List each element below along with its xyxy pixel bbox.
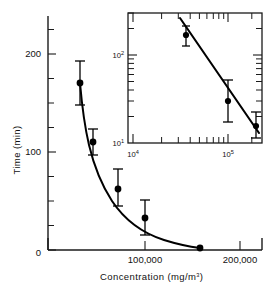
main-x-axis-title-close: ) (200, 271, 204, 282)
main-ytick-label-200: 200 (25, 48, 41, 59)
main-y-axis-title: Time (min) (11, 125, 22, 174)
inset-ytick-10-exponent: 1 (121, 138, 124, 144)
main-xtick-label-100000: 100,000 (128, 254, 162, 265)
main-y-minor-ticks (48, 30, 54, 226)
inset-xtick-1e4-exponent: 4 (136, 149, 139, 155)
inset-xtick-1e4-mantissa: 10 (127, 150, 135, 159)
main-x-axis-title-base: Concentration (mg/m (100, 271, 196, 282)
main-x-major-ticks (145, 241, 240, 250)
inset-xtick-label-1e4: 104 (127, 149, 139, 159)
chart-canvas: 200 100 0 100,000 200,000 Time (min) Con… (0, 0, 274, 291)
inset-ytick-100-exponent: 2 (121, 50, 124, 56)
data-point-5 (197, 245, 204, 252)
figure-container: 200 100 0 100,000 200,000 Time (min) Con… (0, 0, 274, 291)
main-ytick-label-100: 100 (25, 146, 41, 157)
inset-xtick-1e5-exponent: 5 (231, 149, 234, 155)
main-y-major-ticks (48, 54, 56, 250)
data-point-1 (75, 61, 85, 105)
main-x-axis-title: Concentration (mg/m3) (100, 271, 203, 282)
data-point-2 (88, 129, 98, 155)
inset-plot: 102 101 104 105 (112, 13, 262, 159)
inset-xtick-1e5-mantissa: 10 (222, 150, 230, 159)
inset-ytick-10-mantissa: 10 (112, 139, 120, 148)
inset-ytick-label-10: 101 (112, 138, 124, 148)
inset-ytick-100-mantissa: 10 (112, 51, 120, 60)
inset-ytick-label-100: 102 (112, 50, 124, 60)
main-xtick-label-200000: 200,000 (223, 254, 257, 265)
data-point-3 (113, 169, 123, 206)
inset-frame (128, 13, 262, 143)
inset-xtick-label-1e5: 105 (222, 149, 234, 159)
main-ytick-label-0: 0 (36, 247, 41, 258)
